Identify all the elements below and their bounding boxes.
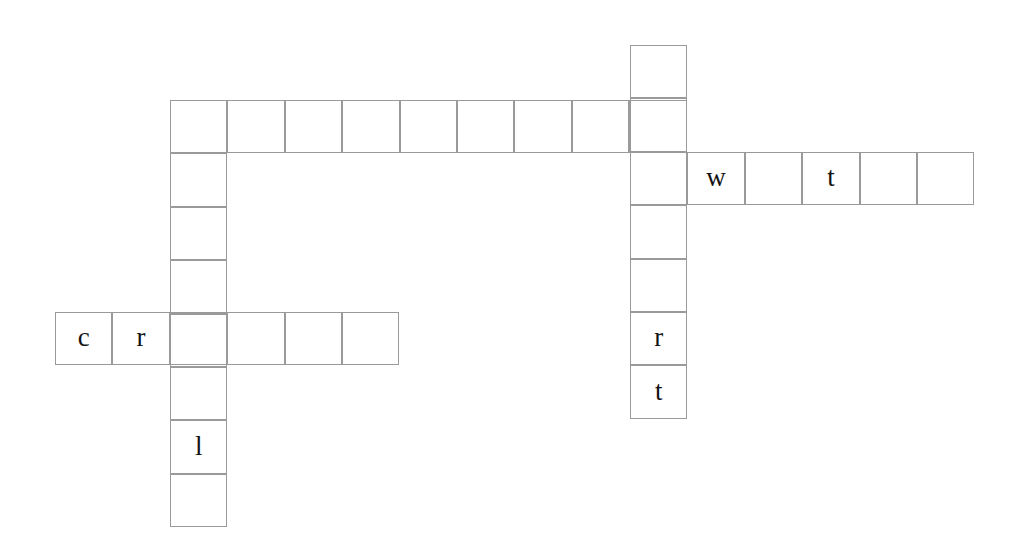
crossword-cell-letter: r bbox=[137, 324, 146, 351]
crossword-cell[interactable] bbox=[917, 152, 974, 205]
crossword-cell-letter: c bbox=[78, 324, 90, 351]
crossword-cell-letter: t bbox=[827, 164, 835, 191]
crossword-cell[interactable] bbox=[170, 207, 227, 260]
crossword-cell[interactable] bbox=[170, 314, 227, 367]
crossword-cell[interactable] bbox=[170, 474, 227, 527]
crossword-cell[interactable]: r bbox=[630, 312, 687, 365]
crossword-cell[interactable] bbox=[860, 152, 917, 205]
crossword-cell[interactable] bbox=[170, 367, 227, 420]
crossword-cell[interactable]: r bbox=[112, 312, 169, 365]
crossword-cell-letter: r bbox=[654, 324, 663, 351]
crossword-cell-letter: w bbox=[706, 164, 726, 191]
crossword-cell[interactable] bbox=[630, 45, 687, 98]
crossword-cell[interactable] bbox=[170, 153, 227, 206]
crossword-cell[interactable]: c bbox=[55, 312, 112, 365]
crossword-cell[interactable]: w bbox=[687, 152, 744, 205]
crossword-grid: wtcrlrt bbox=[0, 0, 1017, 549]
crossword-cell[interactable] bbox=[630, 259, 687, 312]
crossword-cell-letter: t bbox=[655, 378, 663, 405]
crossword-cell[interactable] bbox=[572, 100, 629, 153]
crossword-cell[interactable] bbox=[342, 312, 399, 365]
crossword-cell[interactable] bbox=[514, 100, 571, 153]
crossword-cell[interactable] bbox=[630, 205, 687, 258]
crossword-cell[interactable] bbox=[227, 312, 284, 365]
crossword-cell[interactable] bbox=[170, 260, 227, 313]
crossword-cell[interactable]: t bbox=[802, 152, 859, 205]
crossword-cell[interactable] bbox=[630, 98, 687, 151]
crossword-cell[interactable]: l bbox=[170, 420, 227, 473]
crossword-cell[interactable] bbox=[227, 100, 284, 153]
crossword-cell-letter: l bbox=[195, 433, 203, 460]
crossword-cell[interactable] bbox=[400, 100, 457, 153]
crossword-cell[interactable] bbox=[342, 100, 399, 153]
crossword-cell[interactable] bbox=[170, 100, 227, 153]
crossword-cell[interactable] bbox=[457, 100, 514, 153]
crossword-cell[interactable] bbox=[745, 152, 802, 205]
crossword-cell[interactable] bbox=[285, 312, 342, 365]
crossword-cell[interactable] bbox=[285, 100, 342, 153]
crossword-cell[interactable] bbox=[630, 152, 687, 205]
crossword-cell[interactable]: t bbox=[630, 365, 687, 418]
